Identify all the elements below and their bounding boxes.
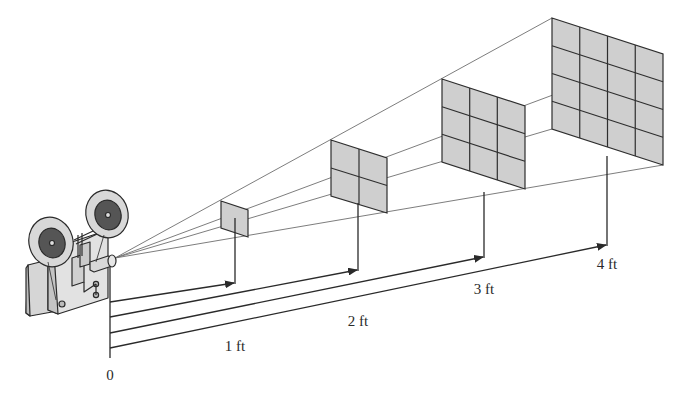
screen-3ft [442,79,525,189]
screen-4ft [552,18,663,165]
projector-inverse-square-diagram: 0 1 ft 2 ft 3 ft 4 ft [0,0,679,402]
distance-label-3ft: 3 ft [474,281,494,298]
distance-label-1ft: 1 ft [225,338,245,355]
diagram-canvas [0,0,679,402]
distance-label-2ft: 2 ft [348,313,368,330]
origin-label: 0 [106,367,114,384]
screen-2ft [331,140,387,213]
distance-label-4ft: 4 ft [597,256,617,273]
film-projector-icon [23,185,133,316]
